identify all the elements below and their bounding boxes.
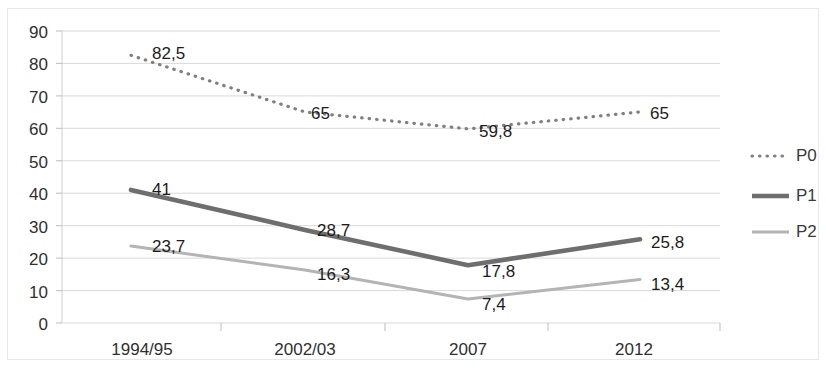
x-tick-label-1994-95: 1994/95 (111, 340, 172, 359)
y-tick-label-20: 20 (29, 250, 48, 269)
y-tick-label-0: 0 (39, 315, 48, 334)
y-tick-label-70: 70 (29, 88, 48, 107)
data-label-p1-2012: 25,8 (651, 233, 684, 252)
y-tick-label-80: 80 (29, 55, 48, 74)
data-label-p2-1994-95: 23,7 (152, 237, 185, 256)
data-labels-p1: 41 28,7 17,8 25,8 (152, 180, 684, 281)
y-tick-label-90: 90 (29, 23, 48, 42)
x-axis-ticks (221, 323, 720, 331)
chart-legend: P0 P1 P2 (752, 146, 817, 241)
data-labels-p2: 23,7 16,3 7,4 13,4 (152, 237, 684, 314)
y-tick-label-50: 50 (29, 153, 48, 172)
data-label-p1-2007: 17,8 (482, 262, 515, 281)
series-line-p0 (131, 55, 640, 129)
series-line-p1 (131, 190, 640, 265)
y-tick-label-10: 10 (29, 283, 48, 302)
legend-item-p2[interactable]: P2 (752, 222, 817, 241)
legend-item-p1[interactable]: P1 (752, 186, 817, 205)
data-label-p2-2007: 7,4 (482, 295, 506, 314)
legend-item-p0[interactable]: P0 (752, 146, 817, 165)
x-tick-label-2012: 2012 (615, 340, 653, 359)
legend-label-p0: P0 (796, 146, 817, 165)
data-label-p2-2002-03: 16,3 (317, 265, 350, 284)
x-tick-label-2007: 2007 (449, 340, 487, 359)
legend-label-p1: P1 (796, 186, 817, 205)
data-label-p0-2002-03: 65 (311, 104, 330, 123)
y-axis-labels: 90 80 70 60 50 40 30 20 10 0 (29, 23, 48, 334)
legend-label-p2: P2 (796, 222, 817, 241)
data-labels-p0: 82,5 65 59,8 65 (152, 44, 669, 141)
y-tick-label-60: 60 (29, 120, 48, 139)
data-label-p0-1994-95: 82,5 (152, 44, 185, 63)
y-tick-label-40: 40 (29, 185, 48, 204)
gridlines-horizontal (62, 31, 720, 323)
x-tick-label-2002-03: 2002/03 (274, 340, 335, 359)
y-tick-label-30: 30 (29, 218, 48, 237)
data-label-p2-2012: 13,4 (651, 275, 684, 294)
chart-container: 90 80 70 60 50 40 30 20 10 0 1994/95 200… (0, 0, 826, 368)
data-label-p1-2002-03: 28,7 (317, 221, 350, 240)
data-label-p1-1994-95: 41 (152, 180, 171, 199)
data-label-p0-2012: 65 (650, 104, 669, 123)
data-label-p0-2007: 59,8 (479, 122, 512, 141)
x-axis-labels: 1994/95 2002/03 2007 2012 (111, 340, 653, 359)
y-axis-ticks (56, 31, 62, 323)
line-chart-plot: 90 80 70 60 50 40 30 20 10 0 1994/95 200… (0, 0, 826, 368)
